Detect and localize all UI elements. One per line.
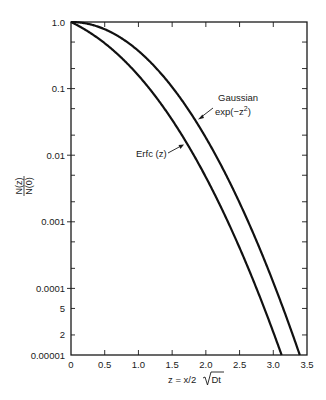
- y-tick-label: 2: [60, 329, 65, 340]
- y-tick-label: 0.0001: [36, 283, 65, 294]
- y-tick-label: 1.0: [52, 17, 65, 28]
- x-tick-labels: 00.51.01.52.02.53.03.5: [68, 359, 313, 370]
- annotation-gaussian: Gaussian exp(−z2): [198, 92, 258, 120]
- y-axis-label: N(z) N(0): [14, 176, 35, 196]
- curves: [71, 22, 300, 355]
- x-axis-label: z = x/2 Dt: [168, 372, 224, 385]
- y-label-denominator: N(0): [24, 177, 34, 195]
- x-tick-label: 0: [68, 359, 73, 370]
- x-label-radicand: Dt: [212, 374, 222, 385]
- arrow-erfc: [168, 146, 181, 153]
- x-tick-label: 1.5: [166, 359, 179, 370]
- y-tick-label: 0.1: [52, 83, 65, 94]
- annotation-gaussian-close: ): [248, 106, 251, 117]
- y-tick-labels: 1.00.10.010.0010.0001520.00001: [31, 17, 65, 361]
- erfc-curve: [71, 22, 282, 355]
- plot-frame: [71, 22, 307, 355]
- y-tick-label: 0.001: [41, 216, 65, 227]
- annotation-erfc: Erfc (z): [136, 145, 184, 160]
- x-tick-label: 0.5: [98, 359, 111, 370]
- chart: 00.51.01.52.02.53.03.5 1.00.10.010.0010.…: [0, 0, 326, 400]
- x-label-prefix: z = x/2: [168, 374, 196, 385]
- annotation-gaussian-line1: Gaussian: [218, 92, 258, 103]
- y-tick-label: 5: [60, 303, 65, 314]
- y-tick-label: 0.01: [47, 150, 66, 161]
- x-tick-label: 3.5: [300, 359, 313, 370]
- x-tick-label: 2.5: [233, 359, 246, 370]
- plot-border: [71, 22, 307, 355]
- annotation-gaussian-exp: exp(−z: [215, 106, 244, 117]
- x-tick-label: 1.0: [132, 359, 145, 370]
- x-tick-label: 2.0: [199, 359, 212, 370]
- annotation-erfc-text: Erfc (z): [136, 148, 167, 159]
- x-tick-label: 3.0: [267, 359, 280, 370]
- gaussian-curve: [71, 22, 300, 355]
- axis-ticks: [67, 22, 307, 355]
- annotation-gaussian-line2: exp(−z2): [215, 105, 251, 117]
- y-label-numerator: N(z): [14, 178, 24, 195]
- y-tick-label: 0.00001: [31, 350, 65, 361]
